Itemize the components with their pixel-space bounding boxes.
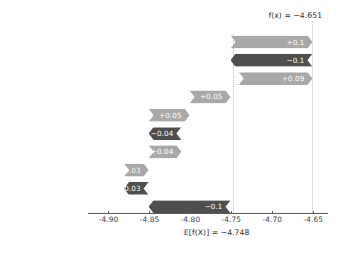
shap-bar-value-label: +0.05 — [200, 92, 223, 101]
x-axis-line — [88, 213, 328, 214]
shap-bar-value-label: +0.05 — [159, 111, 182, 120]
shap-bar-value-label: +0.1 — [287, 38, 305, 47]
x-axis-tick-label: -4.75 — [222, 215, 242, 224]
shap-bar: +0.03 — [124, 164, 149, 177]
x-axis-tick-label: -4.70 — [262, 215, 282, 224]
shap-bar: +0.05 — [190, 90, 231, 103]
x-axis-tick-label: -4.90 — [99, 215, 119, 224]
x-axis-tick-mark — [272, 211, 273, 214]
shap-bar-value-label: +0.09 — [282, 74, 305, 83]
shap-bar: −0.03 — [124, 182, 149, 195]
shap-bar-value-label: −0.04 — [151, 129, 174, 138]
shap-bar: +0.04 — [149, 145, 182, 158]
output-value-annotation: f(x) = −4.651 — [268, 11, 322, 20]
shap-bar-value-label: −0.03 — [118, 184, 141, 193]
shap-bar-value-label: −0.1 — [287, 56, 305, 65]
x-axis-tick-mark — [231, 211, 232, 214]
shap-bar-value-label: +0.04 — [151, 147, 174, 156]
x-axis-tick-mark — [313, 211, 314, 214]
output-value-reference-line — [312, 22, 314, 213]
base-value-annotation: E[f(X)] = −4.748 — [184, 228, 249, 237]
shap-bar: +0.05 — [149, 109, 190, 122]
shap-bar: +0.1 — [231, 36, 313, 49]
shap-bar-value-label: −0.1 — [205, 202, 223, 211]
shap-bar: −0.1 — [231, 54, 313, 67]
x-axis-tick-label: -4.85 — [140, 215, 160, 224]
x-axis-tick-label: -4.65 — [303, 215, 323, 224]
x-axis-tick-mark — [108, 211, 109, 214]
shap-bar-value-label: +0.03 — [118, 166, 141, 175]
x-axis-tick-label: -4.80 — [181, 215, 201, 224]
x-axis-tick-mark — [190, 211, 191, 214]
x-axis-tick-mark — [149, 211, 150, 214]
shap-waterfall-chart: f(x) = −4.651 nhi = nhikya = kyachance =… — [0, 0, 345, 254]
shap-bar: +0.09 — [239, 72, 313, 85]
shap-bar: −0.04 — [149, 127, 182, 140]
